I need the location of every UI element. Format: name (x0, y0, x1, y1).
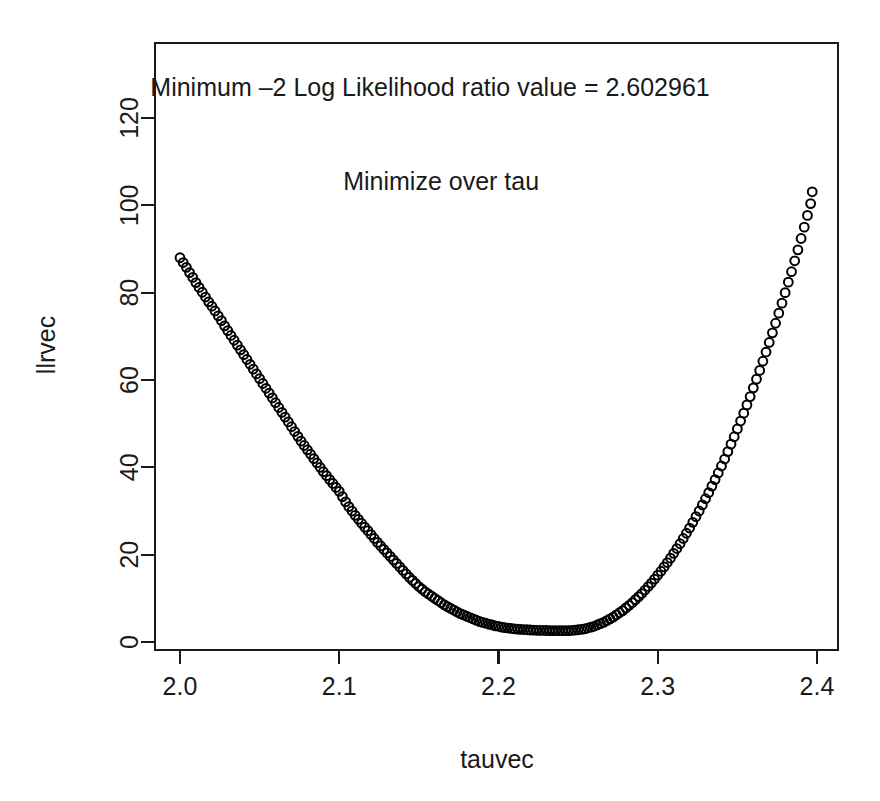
chart-canvas: 2.02.12.22.32.4 020406080100120 tauvec l… (0, 0, 880, 801)
x-tick-label: 2.0 (163, 672, 198, 700)
y-tick-label: 40 (115, 453, 143, 481)
y-tick-label: 0 (115, 635, 143, 649)
x-tick-label: 2.4 (800, 672, 835, 700)
y-tick-label: 100 (115, 184, 143, 226)
x-tick-label: 2.1 (322, 672, 357, 700)
annotation-minimize-over-tau: Minimize over tau (343, 167, 539, 195)
y-tick-label: 60 (115, 366, 143, 394)
y-tick-label: 120 (115, 97, 143, 139)
y-tick-label: 20 (115, 541, 143, 569)
x-axis-title: tauvec (460, 745, 534, 773)
profile-likelihood-scatter-plot: 2.02.12.22.32.4 020406080100120 tauvec l… (0, 0, 880, 801)
y-axis-title: llrvec (32, 316, 60, 374)
y-tick-label: 80 (115, 279, 143, 307)
annotation-minimum-value: Minimum –2 Log Likelihood ratio value = … (150, 73, 709, 101)
x-tick-label: 2.2 (481, 672, 516, 700)
x-tick-label: 2.3 (640, 672, 675, 700)
